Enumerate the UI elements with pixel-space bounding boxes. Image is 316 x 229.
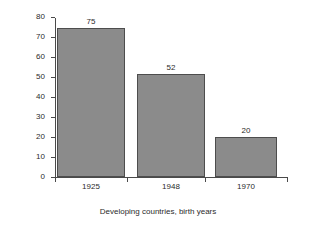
y-tick-30: 30 xyxy=(51,117,55,118)
y-tick-label-40: 40 xyxy=(36,91,45,102)
x-axis-title: Developing countries, birth years xyxy=(0,206,316,218)
y-tick-label-10: 10 xyxy=(36,151,45,162)
bar-1925: 75 1925 xyxy=(57,28,125,177)
bar-value-1925: 75 xyxy=(58,17,124,27)
y-tick-label-80: 80 xyxy=(36,11,45,22)
x-tick-end xyxy=(287,178,288,182)
x-category-label-1948: 1948 xyxy=(138,181,204,192)
y-tick-label-20: 20 xyxy=(36,131,45,142)
y-tick-label-50: 50 xyxy=(36,71,45,82)
x-category-label-1970: 1970 xyxy=(216,181,276,192)
x-axis-line xyxy=(55,177,288,178)
y-tick-70: 70 xyxy=(51,37,55,38)
plot-area: 0 10 20 30 40 50 60 70 80 xyxy=(55,18,288,178)
y-tick-80: 80 xyxy=(51,17,55,18)
y-tick-label-30: 30 xyxy=(36,111,45,122)
y-tick-label-70: 70 xyxy=(36,31,45,42)
x-category-label-1925: 1925 xyxy=(58,181,124,192)
x-tick-1 xyxy=(127,178,128,182)
bar-value-1970: 20 xyxy=(216,126,276,136)
bar-value-1948: 52 xyxy=(138,63,204,73)
y-axis-line xyxy=(55,18,56,178)
x-tick-start xyxy=(55,178,56,182)
y-tick-40: 40 xyxy=(51,97,55,98)
y-tick-20: 20 xyxy=(51,137,55,138)
y-tick-10: 10 xyxy=(51,157,55,158)
bar-1970: 20 1970 xyxy=(215,137,277,177)
y-tick-50: 50 xyxy=(51,77,55,78)
y-tick-label-60: 60 xyxy=(36,51,45,62)
bar-chart: Percentage of illiterates 0 10 20 30 40 … xyxy=(0,0,316,229)
bar-1948: 52 1948 xyxy=(137,74,205,177)
x-tick-2 xyxy=(205,178,206,182)
y-tick-60: 60 xyxy=(51,57,55,58)
y-tick-label-0: 0 xyxy=(41,171,45,182)
